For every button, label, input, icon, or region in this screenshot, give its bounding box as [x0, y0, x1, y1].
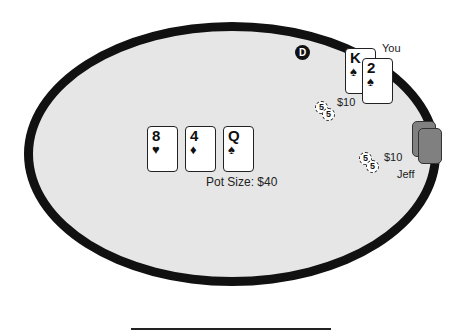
divider-line	[131, 328, 331, 330]
chip-icon: 5	[322, 108, 335, 121]
card-rank: 8	[152, 128, 160, 143]
your-card-2: 2 ♠	[362, 58, 393, 104]
card-rank: 4	[190, 128, 198, 143]
community-card-1: 8 ♥	[147, 126, 178, 172]
card-rank: 2	[367, 60, 375, 75]
community-card-2: 4 ♦	[185, 126, 216, 172]
player-name-you: You	[382, 42, 401, 54]
your-bet-amount: $10	[337, 96, 355, 108]
pot-size-label: Pot Size: $40	[206, 175, 277, 189]
spade-icon: ♠	[367, 75, 374, 88]
heart-icon: ♥	[152, 143, 160, 156]
dealer-button: D	[295, 45, 310, 60]
community-card-3: Q ♠	[223, 126, 254, 172]
diamond-icon: ♦	[190, 143, 197, 156]
player-name-jeff: Jeff	[397, 168, 415, 180]
jeff-bet-amount: $10	[384, 151, 402, 163]
card-back-icon	[418, 128, 442, 164]
chip-icon: 5	[366, 160, 379, 173]
card-rank: K	[350, 50, 361, 65]
spade-icon: ♠	[228, 143, 235, 156]
card-rank: Q	[228, 128, 240, 143]
spade-icon: ♠	[350, 65, 357, 78]
